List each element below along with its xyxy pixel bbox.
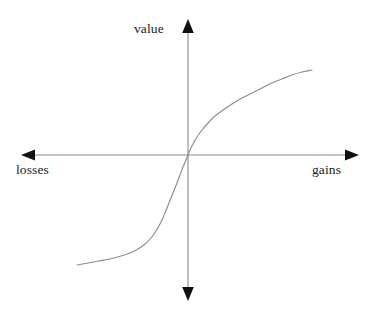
value-function-figure: value losses gains xyxy=(0,0,372,315)
y-axis-label-value: value xyxy=(134,22,164,36)
x-axis-left-arrow-icon xyxy=(21,150,35,161)
y-axis-down-arrow-icon xyxy=(182,287,194,301)
x-axis-right-arrow-icon xyxy=(345,150,359,161)
value-function-curve xyxy=(77,70,312,265)
chart-canvas xyxy=(0,0,372,315)
x-axis-label-gains: gains xyxy=(312,163,341,177)
y-axis-up-arrow-icon xyxy=(182,19,194,33)
x-axis-label-losses: losses xyxy=(16,163,49,177)
